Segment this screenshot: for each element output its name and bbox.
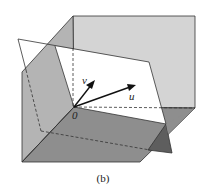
label-u: u <box>129 90 135 102</box>
figure-caption: (b) <box>97 172 110 185</box>
plane-edge-left <box>18 39 26 70</box>
diagram: v u 0 (b) <box>0 0 207 190</box>
label-origin: 0 <box>72 109 78 121</box>
label-v: v <box>82 74 87 86</box>
